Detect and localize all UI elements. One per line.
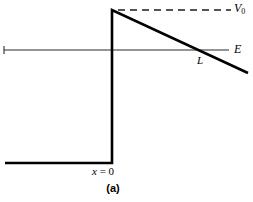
turning-point-label: L [197, 55, 203, 66]
figure-container: V0 E L x = 0 (a) [0, 0, 253, 202]
energy-level-label: E [234, 43, 241, 55]
figure-caption: (a) [106, 183, 119, 194]
barrier-height-label: V0 [234, 2, 245, 14]
origin-value: 0 [109, 165, 115, 177]
barrier-height-subscript: 0 [241, 7, 245, 16]
origin-label: x = 0 [92, 166, 114, 177]
figure-background [0, 0, 253, 202]
potential-barrier-diagram [0, 0, 253, 202]
